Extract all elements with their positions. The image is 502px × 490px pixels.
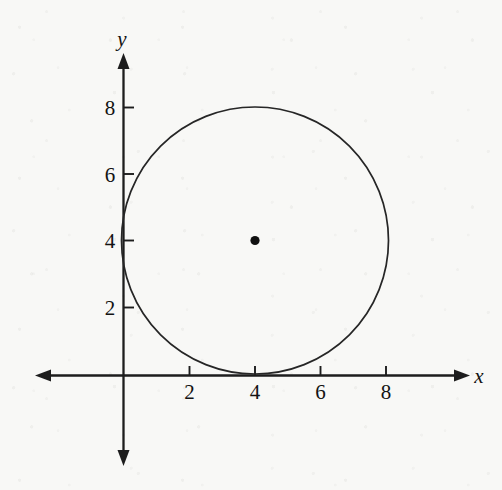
coordinate-plane-svg: 2 4 6 8 8 6 4 2 x y [0,0,502,490]
circle-center-point [250,236,259,245]
y-axis-bottom-arrowhead [118,450,130,466]
x-axis-right-arrowhead [454,370,470,382]
y-tick-label-4: 4 [105,229,116,253]
x-tick-label-2: 2 [184,380,195,404]
y-axis-label: y [115,27,127,51]
x-axis-left-arrowhead [35,370,51,382]
x-tick-label-8: 8 [381,380,392,404]
figure-canvas: 2 4 6 8 8 6 4 2 x y [0,0,502,490]
y-axis-top-arrowhead [118,53,130,69]
x-tick-label-4: 4 [250,380,261,404]
y-tick-label-6: 6 [105,163,116,187]
x-tick-label-6: 6 [315,380,326,404]
y-tick-label-2: 2 [105,296,116,320]
y-tick-label-8: 8 [105,96,116,120]
x-axis-label: x [473,364,484,388]
